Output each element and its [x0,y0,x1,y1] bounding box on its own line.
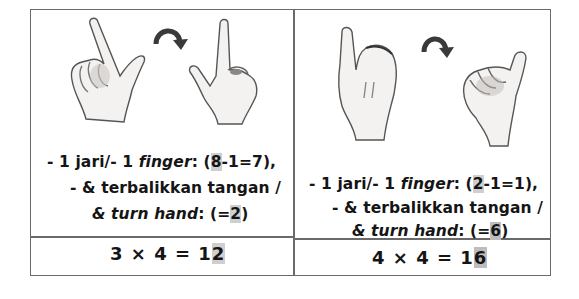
right-equation: 4 × 4 = 16 [372,247,487,268]
curved-arrow-right-icon [156,31,188,50]
right-caption-line3: & turn hand: (=6) [352,219,508,243]
curved-arrow-right-icon [424,39,454,58]
right-illustration [330,22,540,147]
hand-fist-thumb-palm-facing [464,52,526,146]
left-caption-line3: & turn hand: (=2) [92,202,248,226]
right-caption-line1: - 1 jari/- 1 finger: (2-1=1), [309,172,538,196]
left-caption-line1: - 1 jari/- 1 finger: (8-1=7), [47,150,276,174]
left-illustration [60,14,275,129]
hand-index-finger-thumb-back-facing [190,20,257,125]
left-caption-line2: - & terbalikkan tangan / [70,176,281,200]
highlight: 2 [230,205,241,223]
row-divider-left [30,236,294,238]
left-equation: 3 × 4 = 12 [110,243,225,264]
highlight: 6 [474,247,488,268]
hand-index-finger-thumb-palm-facing [71,18,144,122]
highlight: 8 [211,153,222,171]
right-caption-line2: - & terbalikkan tangan / [332,196,543,220]
highlight: 2 [473,175,484,193]
highlight: 2 [212,243,226,264]
hand-thumb-up-back-facing [339,28,397,141]
highlight: 6 [490,222,501,240]
